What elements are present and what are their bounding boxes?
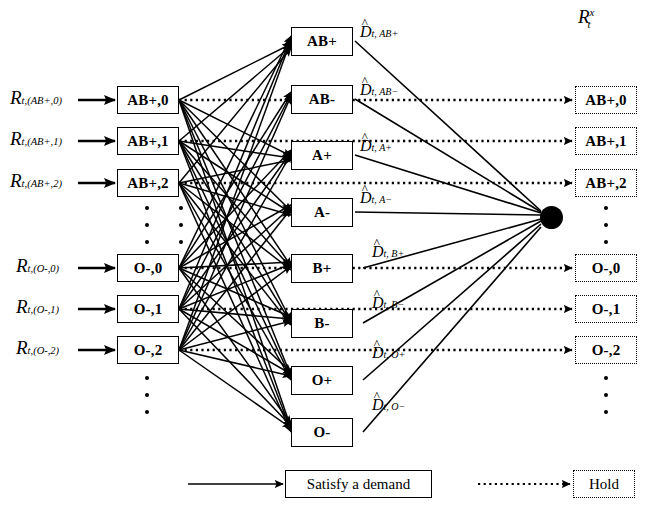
demand-node-b-plus[interactable]: B+ (291, 254, 353, 283)
ellipsis-right-top (603, 206, 608, 244)
demand-node-b-minus[interactable]: B- (291, 309, 353, 338)
post-node-o-minus-2[interactable]: O-,2 (575, 336, 637, 364)
replenishment-arrows (78, 100, 115, 350)
inventory-node-ab-plus-2[interactable]: AB+,2 (117, 169, 179, 197)
inventory-node-o-minus-2[interactable]: O-,2 (117, 336, 179, 364)
page-title: Rxt (578, 6, 591, 30)
replenishment-label-4: Rt,(O-,1) (16, 297, 59, 316)
aggregation-node[interactable] (540, 206, 563, 229)
satisfy-demand-edges (179, 36, 291, 432)
post-node-ab-plus-1[interactable]: AB+,1 (575, 127, 637, 155)
legend-satisfy-demand: Satisfy a demand (285, 470, 432, 498)
demand-label-o-minus: ^Dt, O− (372, 397, 405, 413)
ellipsis-left-outer (178, 206, 183, 244)
demand-label-ab-minus: ^Dt, AB− (360, 82, 398, 98)
replenishment-label-2: Rt,(AB+,2) (10, 171, 62, 190)
ellipsis-left-inner (144, 206, 149, 244)
replenishment-label-0: Rt,(AB+,0) (10, 88, 62, 107)
post-node-o-minus-1[interactable]: O-,1 (575, 295, 637, 323)
post-node-o-minus-0[interactable]: O-,0 (575, 254, 637, 282)
inventory-node-o-minus-1[interactable]: O-,1 (117, 295, 179, 323)
demand-node-a-minus[interactable]: A- (291, 198, 353, 227)
demand-node-a-plus[interactable]: A+ (291, 141, 353, 170)
demand-label-o-plus: ^Dt, O+ (372, 345, 405, 361)
replenishment-label-3: Rt,(O-,0) (16, 256, 59, 275)
post-node-ab-plus-2[interactable]: AB+,2 (575, 169, 637, 197)
demand-label-b-plus: ^Dt, B+ (372, 244, 404, 260)
demand-label-a-minus: ^Dt, A− (360, 190, 392, 206)
demand-label-a-plus: ^Dt, A+ (360, 138, 392, 154)
legend-hold: Hold (573, 470, 635, 498)
ellipsis-right-bottom (603, 376, 608, 414)
network-diagram: Rt,(AB+,0) Rt,(AB+,1) Rt,(AB+,2) Rt,(O-,… (0, 0, 651, 509)
demand-node-ab-minus[interactable]: AB- (291, 85, 353, 114)
post-node-ab-plus-0[interactable]: AB+,0 (575, 86, 637, 114)
demand-label-ab-plus: ^Dt, AB+ (360, 24, 398, 40)
inventory-node-ab-plus-0[interactable]: AB+,0 (117, 86, 179, 114)
replenishment-label-1: Rt,(AB+,1) (10, 129, 62, 148)
inventory-node-ab-plus-1[interactable]: AB+,1 (117, 127, 179, 155)
demand-node-o-plus[interactable]: O+ (291, 366, 353, 395)
replenishment-label-5: Rt,(O-,2) (16, 338, 59, 357)
inventory-node-o-minus-0[interactable]: O-,0 (117, 254, 179, 282)
demand-node-ab-plus[interactable]: AB+ (291, 27, 353, 56)
ellipsis-left-bottom (144, 376, 149, 414)
demand-label-b-minus: ^Dt, B− (372, 295, 404, 311)
demand-node-o-minus[interactable]: O- (291, 418, 353, 447)
